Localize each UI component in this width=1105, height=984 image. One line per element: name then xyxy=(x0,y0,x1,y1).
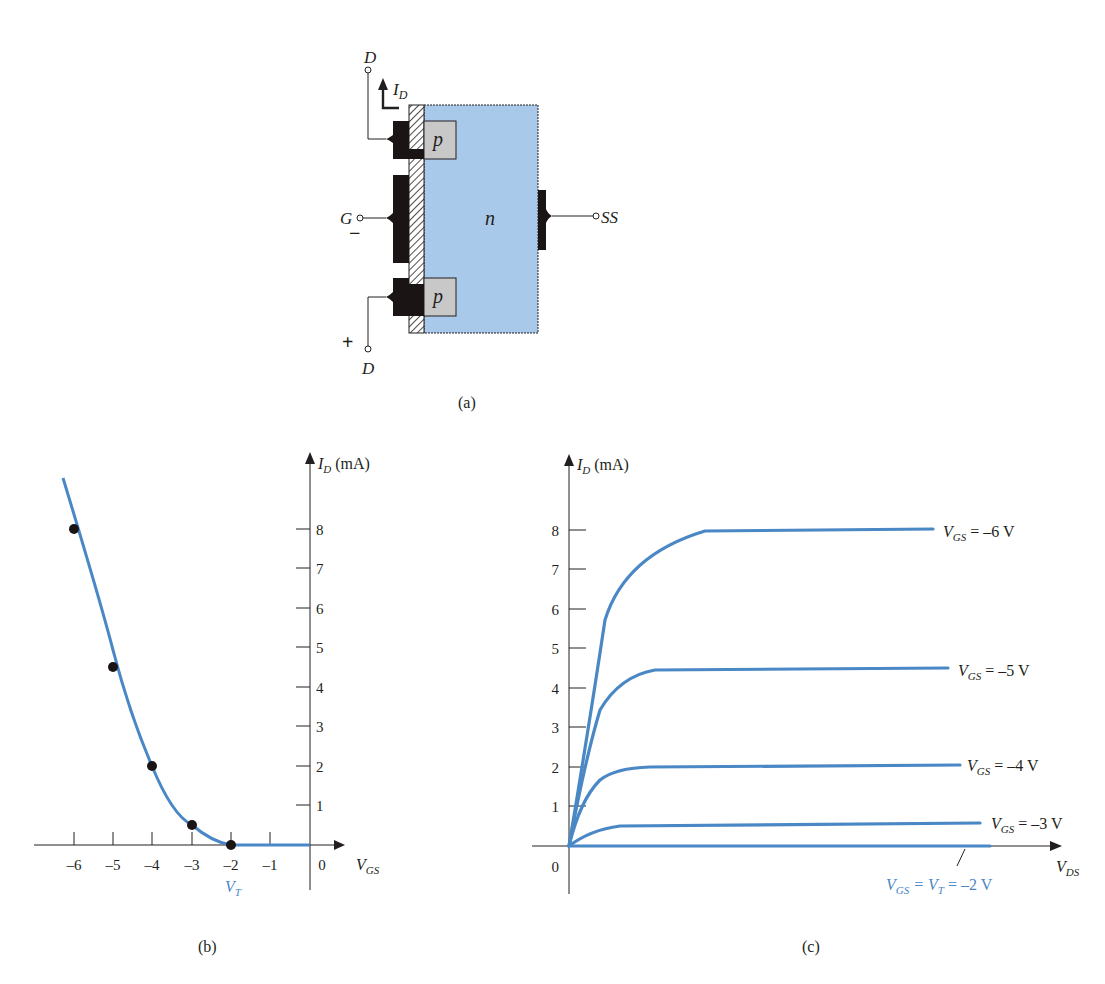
vgs-axis-arrow-icon xyxy=(334,840,345,850)
origin-label: 0 xyxy=(552,859,560,875)
curve-vgs-minus6 xyxy=(569,529,933,846)
transfer-characteristic-chart: –6 –5 –4 –3 –2 –1 0 1 2 3 4 5 6 7 8 ID (… xyxy=(34,452,380,898)
svg-text:1: 1 xyxy=(316,798,324,814)
drain-bottom-terminal xyxy=(365,346,371,352)
label-vgs-minus5: VGS = –5 V xyxy=(958,662,1030,682)
svg-text:4: 4 xyxy=(552,681,560,697)
svg-text:5: 5 xyxy=(316,640,324,656)
curve-vgs-minus3 xyxy=(569,823,980,846)
svg-text:–3: –3 xyxy=(184,857,200,873)
caption-c: (c) xyxy=(802,938,820,956)
substrate-metal xyxy=(538,190,552,250)
id-axis-arrow-icon xyxy=(305,452,315,464)
id-axis-c-arrow-icon xyxy=(564,454,574,466)
p-region-bottom-label: p xyxy=(431,285,443,308)
svg-text:–1: –1 xyxy=(262,857,278,873)
p-region-top-label: p xyxy=(431,128,443,151)
output-y-label: ID (mA) xyxy=(576,456,629,476)
svg-text:3: 3 xyxy=(552,720,560,736)
curve-vgs-minus4 xyxy=(569,765,960,846)
label-vgs-minus4: VGS = –4 V xyxy=(967,757,1039,777)
label-vgs-threshold: VGS = VT = –2 V xyxy=(886,876,993,896)
transfer-data-points xyxy=(69,524,236,850)
svg-text:1: 1 xyxy=(552,799,560,815)
transfer-x-label: VGS xyxy=(356,856,380,876)
drain-top-terminal xyxy=(365,67,371,73)
svg-text:2: 2 xyxy=(552,760,560,776)
threshold-leader-line xyxy=(957,849,965,866)
svg-text:7: 7 xyxy=(316,561,324,577)
caption-a: (a) xyxy=(458,394,476,412)
drain-bottom-polarity: + xyxy=(342,331,353,353)
gate-metal xyxy=(386,175,409,263)
svg-text:6: 6 xyxy=(552,602,560,618)
substrate-label: SS xyxy=(601,208,619,227)
svg-text:5: 5 xyxy=(552,641,560,657)
svg-text:–5: –5 xyxy=(105,857,121,873)
drain-characteristics-chart: 1 2 3 4 5 6 7 8 0 ID (mA) VDS VGS = –6 V… xyxy=(532,454,1080,896)
drain-bottom-label: D xyxy=(361,359,375,378)
caption-b: (b) xyxy=(198,938,217,956)
drain-current-label: ID xyxy=(392,80,408,102)
n-region-label: n xyxy=(485,207,495,229)
vt-label: VT xyxy=(225,878,242,898)
label-vgs-minus3: VGS = –3 V xyxy=(991,815,1063,835)
transfer-y-label: ID (mA) xyxy=(317,455,370,475)
figure-canvas: D ID G − SS + D p p n xyxy=(0,0,1105,984)
vds-axis-arrow-icon xyxy=(1050,841,1062,851)
transfer-curve xyxy=(63,478,310,845)
svg-text:–4: –4 xyxy=(144,857,161,873)
substrate-terminal xyxy=(593,213,599,219)
svg-text:8: 8 xyxy=(316,522,324,538)
svg-text:3: 3 xyxy=(316,719,324,735)
svg-text:2: 2 xyxy=(316,759,324,775)
drain-top-label: D xyxy=(363,48,377,67)
label-vgs-minus6: VGS = –6 V xyxy=(943,523,1015,543)
gate-terminal xyxy=(357,215,363,221)
svg-text:0: 0 xyxy=(318,857,326,873)
mosfet-cross-section: D ID G − SS + D p p n xyxy=(340,48,619,378)
curve-vgs-minus5 xyxy=(569,668,948,846)
gate-polarity: − xyxy=(349,222,360,244)
svg-text:8: 8 xyxy=(552,523,560,539)
svg-text:4: 4 xyxy=(316,680,324,696)
svg-text:6: 6 xyxy=(316,601,324,617)
svg-text:7: 7 xyxy=(552,562,560,578)
svg-text:–6: –6 xyxy=(66,857,83,873)
output-x-label: VDS xyxy=(1056,858,1080,878)
svg-text:–2: –2 xyxy=(223,857,239,873)
